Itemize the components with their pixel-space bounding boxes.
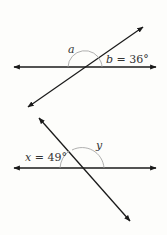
transversal-line-2 [39,118,130,221]
angle-b-label: b = 36° [106,53,149,66]
figure-1: a b = 36° [14,27,156,107]
angle-y-label: y [95,139,103,152]
angle-x-label: x = 49° [25,151,67,164]
angle-b-arc [101,62,102,67]
diagram-canvas: a b = 36° x = 49° y [0,0,167,235]
angle-diagrams: a b = 36° x = 49° y [0,0,167,235]
figure-2: x = 49° y [14,118,156,221]
angle-a-label: a [68,43,75,56]
